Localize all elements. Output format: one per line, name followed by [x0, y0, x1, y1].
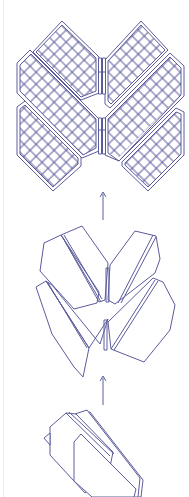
folding-panel-diagram	[0, 0, 189, 497]
deployed-array	[17, 21, 184, 191]
panel-left-upper	[40, 235, 99, 309]
center-hinges	[99, 58, 106, 154]
stowed-array	[44, 410, 143, 497]
arrow-partial-to-deployed	[100, 192, 106, 220]
panel-right-lower	[108, 278, 175, 362]
partially-unfolded-array	[36, 226, 175, 377]
panel-left-upper-strip	[61, 226, 108, 302]
arrow-stowed-to-partial	[100, 376, 106, 405]
panel-right-upper	[108, 231, 160, 304]
